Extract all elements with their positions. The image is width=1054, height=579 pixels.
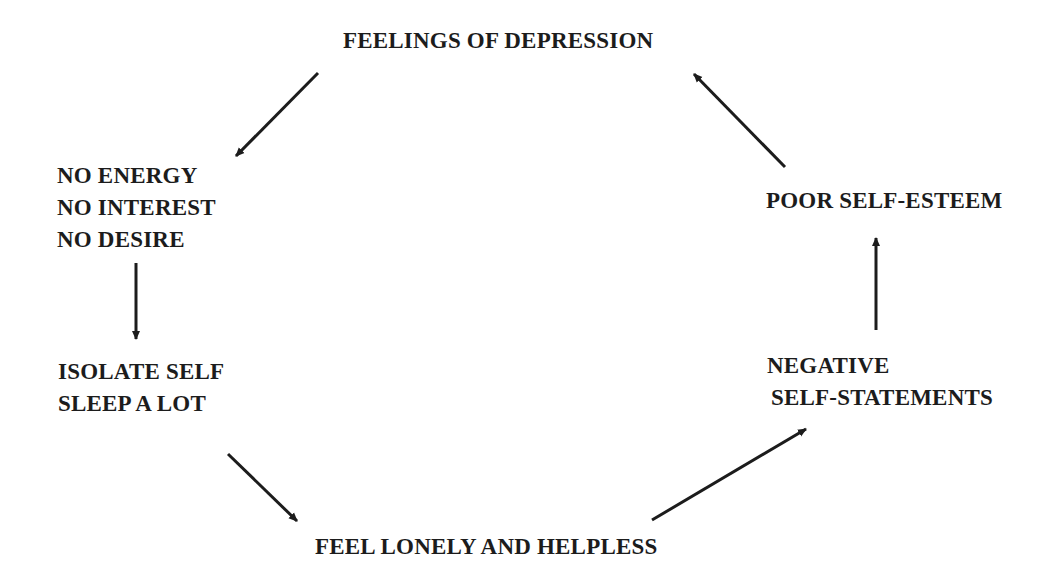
node-text: POOR SELF-ESTEEM — [766, 185, 1002, 217]
node-feelings-of-depression: FEELINGS OF DEPRESSION — [343, 25, 653, 57]
node-poor-self-esteem: POOR SELF-ESTEEM — [766, 185, 1002, 217]
depression-cycle-diagram: FEELINGS OF DEPRESSION NO ENERGY NO INTE… — [0, 0, 1054, 579]
node-text: FEELINGS OF DEPRESSION — [343, 25, 653, 57]
arrow-depression-to-no-energy — [236, 73, 318, 156]
node-feel-lonely: FEEL LONELY AND HELPLESS — [315, 531, 657, 563]
node-isolate-self: ISOLATE SELF SLEEP A LOT — [58, 356, 224, 420]
arrow-esteem-to-depression — [694, 74, 785, 167]
node-no-energy: NO ENERGY NO INTEREST NO DESIRE — [57, 160, 216, 256]
node-text: FEEL LONELY AND HELPLESS — [315, 531, 657, 563]
node-text: NO DESIRE — [57, 224, 216, 256]
node-negative-self-statements: NEGATIVE SELF-STATEMENTS — [767, 350, 993, 414]
node-text: SELF-STATEMENTS — [767, 382, 993, 414]
node-text: NEGATIVE — [767, 350, 993, 382]
arrow-isolate-to-lonely — [228, 454, 297, 521]
arrows-layer — [0, 0, 1054, 579]
node-text: NO INTEREST — [57, 192, 216, 224]
node-text: SLEEP A LOT — [58, 388, 224, 420]
arrow-lonely-to-negative — [652, 429, 806, 520]
node-text: ISOLATE SELF — [58, 356, 224, 388]
node-text: NO ENERGY — [57, 160, 216, 192]
